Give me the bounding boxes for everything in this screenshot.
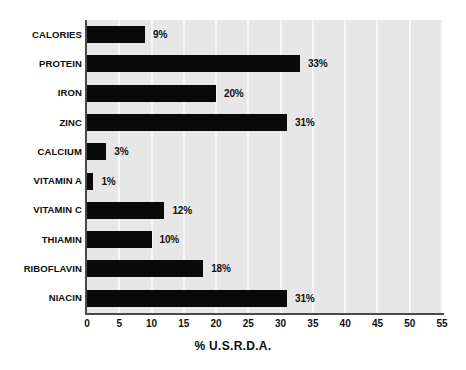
- x-axis-tick-labels: 0510152025303540455055: [87, 318, 442, 334]
- bar: [87, 231, 152, 248]
- bar-row: 10%: [87, 225, 442, 254]
- bar-value-label: 3%: [114, 143, 128, 160]
- bar-row: 20%: [87, 79, 442, 108]
- bar: [87, 143, 106, 160]
- bar-value-label: 12%: [172, 202, 191, 219]
- bar: [87, 290, 287, 307]
- x-tick-label: 45: [372, 318, 383, 329]
- bar-row: 31%: [87, 108, 442, 137]
- bar-row: 12%: [87, 196, 442, 225]
- bar-value-label: 10%: [160, 231, 179, 248]
- x-tick-label: 15: [178, 318, 189, 329]
- bar-value-label: 18%: [211, 260, 230, 277]
- bar-row: 3%: [87, 137, 442, 166]
- bar-row: 33%: [87, 49, 442, 78]
- bar: [87, 26, 145, 43]
- category-axis-labels: CALORIESPROTEINIRONZINCCALCIUMVITAMIN AV…: [0, 20, 82, 313]
- category-label-riboflavin: RIBOFLAVIN: [0, 263, 82, 274]
- category-label-thiamin: THIAMIN: [0, 234, 82, 245]
- x-tick-label: 25: [243, 318, 254, 329]
- bar-row: 18%: [87, 254, 442, 283]
- bar: [87, 55, 300, 72]
- bar: [87, 85, 216, 102]
- bar-value-label: 31%: [295, 114, 314, 131]
- x-tick-label: 10: [146, 318, 157, 329]
- bar-value-label: 31%: [295, 290, 314, 307]
- category-label-calories: CALORIES: [0, 29, 82, 40]
- bar-value-label: 20%: [224, 85, 243, 102]
- plot-area: 9%33%20%31%3%1%12%10%18%31%: [87, 20, 442, 313]
- bar-value-label: 9%: [153, 26, 167, 43]
- bar-value-label: 33%: [308, 55, 327, 72]
- x-tick-label: 55: [436, 318, 447, 329]
- y-axis-spine: [85, 20, 87, 313]
- category-label-iron: IRON: [0, 87, 82, 98]
- category-label-zinc: ZINC: [0, 117, 82, 128]
- x-tick-label: 40: [340, 318, 351, 329]
- x-tick-label: 20: [211, 318, 222, 329]
- category-label-vitamin-c: VITAMIN C: [0, 204, 82, 215]
- x-tick-label: 30: [275, 318, 286, 329]
- category-label-calcium: CALCIUM: [0, 146, 82, 157]
- x-axis-spine: [85, 313, 444, 315]
- x-tick-label: 0: [84, 318, 90, 329]
- bar-value-label: 1%: [101, 173, 115, 190]
- category-label-niacin: NIACIN: [0, 292, 82, 303]
- x-tick-label: 50: [404, 318, 415, 329]
- bar-row: 9%: [87, 20, 442, 49]
- bar: [87, 173, 93, 190]
- bar: [87, 202, 164, 219]
- bar-chart: 9%33%20%31%3%1%12%10%18%31% CALORIESPROT…: [0, 0, 466, 370]
- bar-row: 31%: [87, 284, 442, 313]
- bar: [87, 260, 203, 277]
- x-tick-label: 35: [307, 318, 318, 329]
- x-tick-label: 5: [116, 318, 122, 329]
- bar-row: 1%: [87, 167, 442, 196]
- x-axis-title: % U.S.R.D.A.: [0, 339, 466, 353]
- bar: [87, 114, 287, 131]
- category-label-protein: PROTEIN: [0, 58, 82, 69]
- category-label-vitamin-a: VITAMIN A: [0, 175, 82, 186]
